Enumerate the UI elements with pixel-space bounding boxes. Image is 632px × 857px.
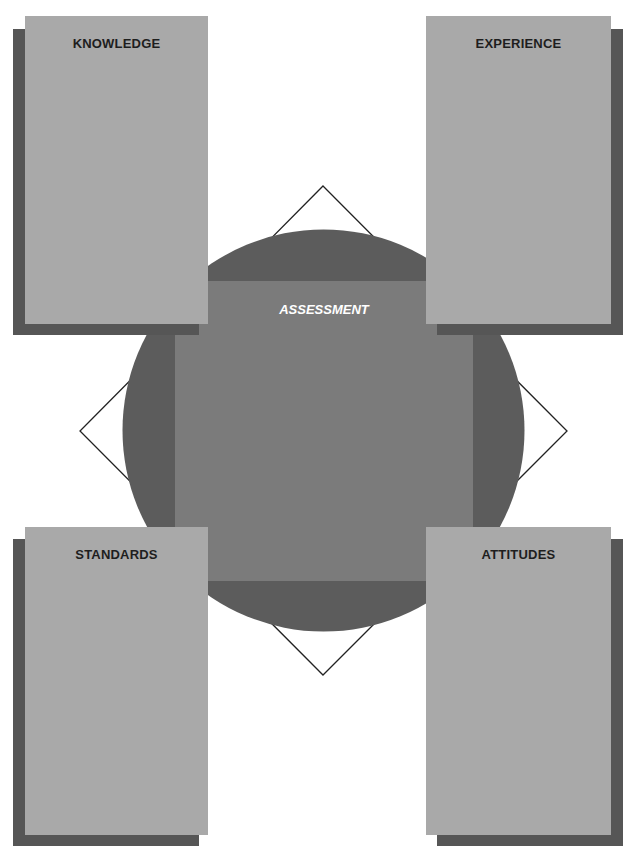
experience-label: EXPERIENCE	[426, 36, 611, 51]
knowledge-card: KNOWLEDGE	[25, 16, 208, 324]
knowledge-label: KNOWLEDGE	[25, 36, 208, 51]
standards-label: STANDARDS	[25, 547, 208, 562]
standards-card: STANDARDS	[25, 527, 208, 835]
attitudes-card: ATTITUDES	[426, 527, 611, 835]
experience-card: EXPERIENCE	[426, 16, 611, 324]
attitudes-label: ATTITUDES	[426, 547, 611, 562]
